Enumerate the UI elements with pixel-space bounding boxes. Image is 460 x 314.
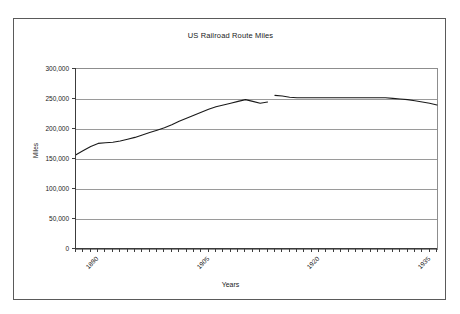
x-tick-mark <box>119 249 120 252</box>
y-axis-title: Miles <box>32 143 39 158</box>
x-tick-mark <box>97 249 98 252</box>
x-tick-mark <box>436 249 437 252</box>
x-tick-label: 1920 <box>305 255 320 270</box>
x-tick-mark <box>340 249 341 252</box>
chart-title: US Railroad Route Miles <box>14 31 447 40</box>
x-tick-mark <box>178 249 179 252</box>
x-tick-mark <box>377 249 378 252</box>
y-tick-mark <box>72 68 75 69</box>
y-tick-label: 0 <box>14 245 69 252</box>
x-tick-mark <box>362 249 363 252</box>
x-tick-mark <box>244 249 245 252</box>
x-tick-mark <box>311 249 312 252</box>
x-tick-mark <box>75 249 76 252</box>
x-tick-mark <box>407 249 408 252</box>
data-series-lines <box>76 69 437 249</box>
x-tick-mark <box>215 249 216 252</box>
x-tick-mark <box>289 249 290 252</box>
x-tick-mark <box>163 249 164 252</box>
x-tick-label: 1905 <box>195 255 210 270</box>
series-line-revised <box>275 95 437 105</box>
x-tick-mark <box>296 249 297 252</box>
x-tick-mark <box>348 249 349 252</box>
x-tick-label: 1890 <box>84 255 99 270</box>
x-tick-mark <box>333 249 334 252</box>
x-tick-mark <box>141 249 142 252</box>
plot-area <box>75 68 438 250</box>
x-tick-mark <box>193 249 194 252</box>
x-tick-mark <box>149 249 150 252</box>
x-tick-mark <box>134 249 135 252</box>
x-tick-mark <box>90 249 91 252</box>
x-tick-mark <box>303 249 304 252</box>
x-tick-mark <box>392 249 393 252</box>
x-tick-mark <box>230 249 231 252</box>
y-tick-mark <box>72 98 75 99</box>
x-tick-mark <box>355 249 356 252</box>
y-tick-label: 300,000 <box>14 65 69 72</box>
x-tick-mark <box>429 249 430 252</box>
x-tick-mark <box>82 249 83 252</box>
x-tick-mark <box>274 249 275 252</box>
x-tick-mark <box>252 249 253 252</box>
x-tick-mark <box>281 249 282 252</box>
x-tick-mark <box>370 249 371 252</box>
series-line-primary <box>76 100 268 155</box>
y-tick-mark <box>72 188 75 189</box>
x-tick-mark <box>171 249 172 252</box>
x-tick-mark <box>222 249 223 252</box>
y-tick-label: 250,000 <box>14 95 69 102</box>
x-tick-mark <box>208 249 209 252</box>
x-tick-mark <box>399 249 400 252</box>
x-tick-label: 1935 <box>416 255 431 270</box>
x-tick-mark <box>156 249 157 252</box>
y-axis-line <box>75 68 76 249</box>
x-tick-mark <box>259 249 260 252</box>
x-tick-mark <box>237 249 238 252</box>
y-tick-label: 200,000 <box>14 125 69 132</box>
x-axis-line <box>75 248 437 249</box>
x-tick-mark <box>267 249 268 252</box>
y-tick-mark <box>72 128 75 129</box>
x-tick-mark <box>421 249 422 252</box>
chart-figure: US Railroad Route Miles 300,000250,00020… <box>13 18 446 300</box>
y-tick-label: 150,000 <box>14 155 69 162</box>
x-tick-mark <box>318 249 319 252</box>
x-tick-mark <box>127 249 128 252</box>
y-tick-mark <box>72 218 75 219</box>
x-tick-mark <box>414 249 415 252</box>
y-tick-mark <box>72 158 75 159</box>
y-tick-label: 100,000 <box>14 185 69 192</box>
x-axis-title: Years <box>14 281 447 288</box>
x-tick-mark <box>325 249 326 252</box>
x-tick-mark <box>186 249 187 252</box>
x-tick-mark <box>104 249 105 252</box>
x-tick-mark <box>384 249 385 252</box>
x-tick-mark <box>200 249 201 252</box>
x-tick-mark <box>112 249 113 252</box>
y-tick-label: 50,000 <box>14 215 69 222</box>
